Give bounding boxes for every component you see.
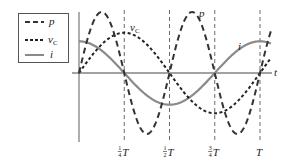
chart: p vC i t 14T12T34TT p vC i [0,0,287,163]
x-tick-labels: 14T12T34TT [118,145,263,158]
tick-suffix: T [168,146,175,158]
tick-denominator: 4 [209,152,212,158]
tick-denominator: 2 [164,152,167,158]
annotation-vc: vC [130,21,140,35]
x-tick-label-0: 14T [118,145,130,158]
legend-label-i: i [50,48,53,60]
annotation-i: i [238,40,241,52]
tick-numerator: 1 [118,145,121,151]
tick-numerator: 1 [164,145,167,151]
x-axis-label: t [274,66,278,78]
tick-suffix: T [122,146,129,158]
legend-label-p: p [48,15,55,27]
tick-suffix: T [256,146,263,158]
period-markers [124,10,260,142]
x-tick-label-2: 34T [208,145,220,158]
x-tick-label-1: 12T [163,145,175,158]
annotation-p: p [198,7,205,19]
tick-denominator: 4 [118,152,121,158]
tick-suffix: T [213,146,220,158]
legend: p vC i [19,14,69,63]
x-tick-label-3: T [256,146,263,158]
tick-numerator: 3 [209,145,212,151]
